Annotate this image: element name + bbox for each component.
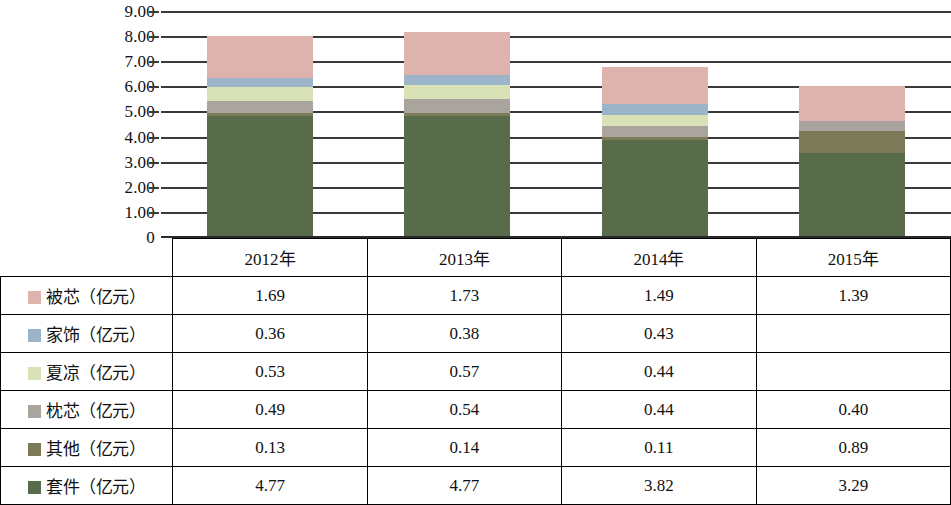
bar-segment-被芯（亿元） xyxy=(602,67,708,104)
bar-segment-套件（亿元） xyxy=(799,153,905,236)
cell-r1-c0: 0.36 xyxy=(173,315,367,353)
row-label-text: 被芯（亿元） xyxy=(46,287,145,307)
stacked-bar-chart: 01.002.003.004.005.006.007.008.009.00 xyxy=(0,0,951,240)
bar-segment-枕芯（亿元） xyxy=(602,126,708,137)
y-axis-tick xyxy=(149,86,159,88)
row-label-text: 其他（亿元） xyxy=(46,439,145,459)
cell-r5-c0: 4.77 xyxy=(173,467,367,505)
cell-r3-c0: 0.49 xyxy=(173,391,367,429)
bar-segment-家饰（亿元） xyxy=(207,78,313,87)
cell-r4-c2: 0.11 xyxy=(562,429,756,467)
cell-r0-c0: 1.69 xyxy=(173,277,367,315)
y-axis-tick xyxy=(149,36,159,38)
bar-segment-家饰（亿元） xyxy=(602,104,708,115)
cell-r5-c1: 4.77 xyxy=(367,467,561,505)
cell-r5-c3: 3.29 xyxy=(756,467,950,505)
column-header-2013: 2013年 xyxy=(367,239,561,277)
cell-r4-c0: 0.13 xyxy=(173,429,367,467)
table-body: 被芯（亿元）1.691.731.491.39家饰（亿元）0.360.380.43… xyxy=(1,277,951,505)
bar-segment-套件（亿元） xyxy=(207,116,313,236)
data-table: 2012年 2013年 2014年 2015年 被芯（亿元）1.691.731.… xyxy=(0,238,951,505)
legend-swatch-icon xyxy=(28,481,41,494)
cell-r0-c2: 1.49 xyxy=(562,277,756,315)
table-row: 夏凉（亿元）0.530.570.44 xyxy=(1,353,951,391)
cell-r1-c3 xyxy=(756,315,950,353)
table-row: 家饰（亿元）0.360.380.43 xyxy=(1,315,951,353)
cell-r0-c1: 1.73 xyxy=(367,277,561,315)
bar-segment-被芯（亿元） xyxy=(404,32,510,75)
cell-r2-c1: 0.57 xyxy=(367,353,561,391)
bar-2013年 xyxy=(404,32,510,236)
y-axis-tick xyxy=(149,11,159,13)
cell-r3-c3: 0.40 xyxy=(756,391,950,429)
bar-segment-夏凉（亿元） xyxy=(207,87,313,100)
row-label-text: 枕芯（亿元） xyxy=(46,401,145,421)
y-axis-tick xyxy=(149,61,159,63)
table-header-row: 2012年 2013年 2014年 2015年 xyxy=(1,239,951,277)
cell-r3-c2: 0.44 xyxy=(562,391,756,429)
y-axis-tick xyxy=(149,162,159,164)
row-label-0: 被芯（亿元） xyxy=(1,277,173,315)
cell-r3-c1: 0.54 xyxy=(367,391,561,429)
cell-r1-c2: 0.43 xyxy=(562,315,756,353)
row-label-text: 夏凉（亿元） xyxy=(46,363,145,383)
row-label-text: 家饰（亿元） xyxy=(46,325,145,345)
bar-segment-枕芯（亿元） xyxy=(404,99,510,113)
bar-segment-夏凉（亿元） xyxy=(404,85,510,99)
table-row: 套件（亿元）4.774.773.823.29 xyxy=(1,467,951,505)
bar-segment-其他（亿元） xyxy=(799,131,905,153)
bar-segment-被芯（亿元） xyxy=(799,86,905,121)
y-axis-labels: 01.002.003.004.005.006.007.008.009.00 xyxy=(0,0,155,240)
column-header-2012: 2012年 xyxy=(173,239,367,277)
legend-swatch-icon xyxy=(28,291,41,304)
row-label-4: 其他（亿元） xyxy=(1,429,173,467)
table-corner-cell xyxy=(1,239,173,277)
cell-r1-c1: 0.38 xyxy=(367,315,561,353)
cell-r0-c3: 1.39 xyxy=(756,277,950,315)
y-axis-tick xyxy=(149,111,159,113)
bar-2014年 xyxy=(602,67,708,236)
y-axis-tick xyxy=(149,187,159,189)
y-axis-tick xyxy=(149,212,159,214)
gridline xyxy=(161,11,951,13)
y-axis-tick xyxy=(149,137,159,139)
row-label-1: 家饰（亿元） xyxy=(1,315,173,353)
row-label-2: 夏凉（亿元） xyxy=(1,353,173,391)
row-label-5: 套件（亿元） xyxy=(1,467,173,505)
cell-r4-c1: 0.14 xyxy=(367,429,561,467)
legend-swatch-icon xyxy=(28,367,41,380)
row-label-3: 枕芯（亿元） xyxy=(1,391,173,429)
bar-segment-套件（亿元） xyxy=(602,140,708,236)
legend-swatch-icon xyxy=(28,329,41,342)
table-row: 被芯（亿元）1.691.731.491.39 xyxy=(1,277,951,315)
cell-r4-c3: 0.89 xyxy=(756,429,950,467)
legend-swatch-icon xyxy=(28,405,41,418)
bar-segment-夏凉（亿元） xyxy=(602,115,708,126)
table-row: 其他（亿元）0.130.140.110.89 xyxy=(1,429,951,467)
bar-segment-被芯（亿元） xyxy=(207,36,313,78)
bar-segment-家饰（亿元） xyxy=(404,75,510,85)
cell-r5-c2: 3.82 xyxy=(562,467,756,505)
bar-2012年 xyxy=(207,36,313,236)
bar-segment-枕芯（亿元） xyxy=(799,121,905,131)
bar-segment-枕芯（亿元） xyxy=(207,101,313,113)
legend-swatch-icon xyxy=(28,443,41,456)
column-header-2015: 2015年 xyxy=(756,239,950,277)
table-row: 枕芯（亿元）0.490.540.440.40 xyxy=(1,391,951,429)
column-header-2014: 2014年 xyxy=(562,239,756,277)
cell-r2-c2: 0.44 xyxy=(562,353,756,391)
chart-plot-area xyxy=(161,0,951,238)
bar-segment-套件（亿元） xyxy=(404,116,510,236)
row-label-text: 套件（亿元） xyxy=(46,477,145,497)
bar-2015年 xyxy=(799,86,905,236)
cell-r2-c3 xyxy=(756,353,950,391)
cell-r2-c0: 0.53 xyxy=(173,353,367,391)
